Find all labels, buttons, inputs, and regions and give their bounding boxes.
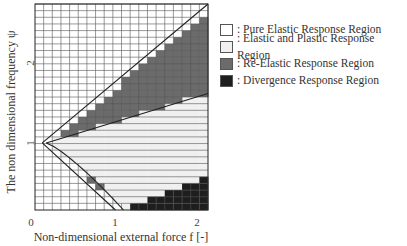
cell-pure-elastic <box>104 77 113 84</box>
cell-elastic-plastic <box>70 137 79 144</box>
cell-pure-elastic <box>61 190 70 197</box>
cell-re-elastic <box>139 90 148 97</box>
cell-re-elastic <box>96 110 105 117</box>
cell-elastic-plastic <box>104 144 113 151</box>
cell-re-elastic <box>156 90 165 97</box>
cell-elastic-plastic <box>199 97 208 104</box>
cell-elastic-plastic <box>173 137 182 144</box>
cell-pure-elastic <box>35 117 44 124</box>
cell-pure-elastic <box>78 17 87 24</box>
cell-pure-elastic <box>113 17 122 24</box>
cell-elastic-plastic <box>87 137 96 144</box>
cell-pure-elastic <box>35 163 44 170</box>
cell-pure-elastic <box>61 70 70 77</box>
cell-pure-elastic <box>70 197 79 204</box>
cell-pure-elastic <box>96 51 105 58</box>
cell-pure-elastic <box>96 77 105 84</box>
cell-re-elastic <box>130 77 139 84</box>
cell-elastic-plastic <box>165 150 174 157</box>
cell-pure-elastic <box>104 17 113 24</box>
cell-pure-elastic <box>52 44 61 51</box>
cell-pure-elastic <box>52 163 61 170</box>
cell-pure-elastic <box>96 24 105 31</box>
cell-divergence <box>156 197 165 204</box>
cell-pure-elastic <box>122 44 131 51</box>
cell-pure-elastic <box>104 31 113 38</box>
cell-pure-elastic <box>147 4 156 11</box>
cell-pure-elastic <box>70 203 79 210</box>
legend-item-divergence: : Divergence Response Region <box>220 72 407 89</box>
cell-pure-elastic <box>70 51 79 58</box>
cell-pure-elastic <box>70 70 79 77</box>
cell-re-elastic <box>113 110 122 117</box>
cell-elastic-plastic <box>122 163 131 170</box>
cell-pure-elastic <box>61 64 70 71</box>
cell-pure-elastic <box>52 70 61 77</box>
cell-elastic-plastic <box>182 150 191 157</box>
cell-elastic-plastic <box>87 130 96 137</box>
cell-elastic-plastic <box>122 177 131 184</box>
cell-divergence <box>182 183 191 190</box>
cell-re-elastic <box>96 104 105 111</box>
cell-pure-elastic <box>96 17 105 24</box>
cell-elastic-plastic <box>182 144 191 151</box>
cell-pure-elastic <box>61 37 70 44</box>
cell-pure-elastic <box>78 51 87 58</box>
cell-re-elastic <box>122 90 131 97</box>
re-elastic-swatch <box>220 58 233 70</box>
cell-pure-elastic <box>122 57 131 64</box>
cell-elastic-plastic <box>96 144 105 151</box>
cell-pure-elastic <box>52 124 61 131</box>
cell-pure-elastic <box>70 44 79 51</box>
cell-pure-elastic <box>35 124 44 131</box>
cell-elastic-plastic <box>199 117 208 124</box>
cell-re-elastic <box>173 51 182 58</box>
cell-re-elastic <box>113 97 122 104</box>
cell-pure-elastic <box>44 24 53 31</box>
cell-pure-elastic <box>52 64 61 71</box>
cell-pure-elastic <box>35 203 44 210</box>
cell-elastic-plastic <box>87 157 96 164</box>
cell-elastic-plastic <box>173 117 182 124</box>
cell-re-elastic <box>122 104 131 111</box>
cell-elastic-plastic <box>122 190 131 197</box>
cell-pure-elastic <box>156 24 165 31</box>
cell-pure-elastic <box>70 77 79 84</box>
cell-elastic-plastic <box>87 150 96 157</box>
cell-pure-elastic <box>52 203 61 210</box>
cell-elastic-plastic <box>156 163 165 170</box>
cell-pure-elastic <box>156 4 165 11</box>
cell-pure-elastic <box>87 51 96 58</box>
cell-elastic-plastic <box>130 163 139 170</box>
cell-pure-elastic <box>44 197 53 204</box>
cell-pure-elastic <box>139 31 148 38</box>
cell-elastic-plastic <box>147 163 156 170</box>
cell-elastic-plastic <box>139 124 148 131</box>
cell-elastic-plastic <box>139 183 148 190</box>
cell-divergence <box>165 203 174 210</box>
cell-pure-elastic <box>96 203 105 210</box>
cell-elastic-plastic <box>147 170 156 177</box>
cell-elastic-plastic <box>191 137 200 144</box>
cell-elastic-plastic <box>96 130 105 137</box>
cell-elastic-plastic <box>122 124 131 131</box>
cell-re-elastic <box>199 24 208 31</box>
cell-pure-elastic <box>61 77 70 84</box>
cell-elastic-plastic <box>147 124 156 131</box>
cell-elastic-plastic <box>113 130 122 137</box>
cell-pure-elastic <box>165 24 174 31</box>
cell-divergence <box>165 190 174 197</box>
cell-pure-elastic <box>70 177 79 184</box>
cell-re-elastic <box>173 84 182 91</box>
pure-elastic-swatch <box>220 24 233 36</box>
cell-elastic-plastic <box>191 130 200 137</box>
cell-elastic-plastic <box>78 157 87 164</box>
cell-pure-elastic <box>44 51 53 58</box>
cell-elastic-plastic <box>156 183 165 190</box>
cell-re-elastic <box>191 37 200 44</box>
cell-pure-elastic <box>70 64 79 71</box>
cell-pure-elastic <box>35 24 44 31</box>
cell-re-elastic <box>182 64 191 71</box>
cell-elastic-plastic <box>139 117 148 124</box>
cell-elastic-plastic <box>130 183 139 190</box>
